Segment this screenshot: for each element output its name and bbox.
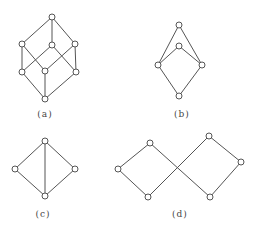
- edge: [179, 25, 202, 65]
- node: [42, 138, 48, 144]
- edge: [150, 143, 210, 197]
- node: [206, 133, 212, 139]
- node: [176, 93, 182, 99]
- node: [49, 42, 55, 48]
- caption-c: (c): [35, 209, 50, 219]
- caption-a: (a): [37, 109, 52, 119]
- node: [176, 22, 182, 28]
- edge: [22, 44, 45, 71]
- caption-b: (b): [174, 109, 190, 119]
- edge: [15, 169, 45, 196]
- node: [72, 41, 78, 47]
- edge: [45, 141, 75, 169]
- figure-d-figure-eight-graph: [115, 133, 244, 200]
- edge: [45, 72, 76, 99]
- caption-d: (d): [172, 209, 188, 219]
- node: [176, 43, 182, 49]
- edge: [209, 136, 241, 162]
- node: [19, 69, 25, 75]
- figure-c-diamond-lattice: [12, 138, 78, 199]
- edge: [158, 46, 179, 65]
- edge: [118, 169, 148, 197]
- edge: [45, 44, 75, 71]
- node: [49, 14, 55, 20]
- node: [72, 166, 78, 172]
- node: [115, 166, 121, 172]
- node: [73, 69, 79, 75]
- node: [207, 194, 213, 200]
- node: [42, 96, 48, 102]
- node: [155, 62, 161, 68]
- node: [238, 159, 244, 165]
- node: [42, 193, 48, 199]
- edge: [22, 72, 45, 99]
- node: [199, 62, 205, 68]
- node: [42, 68, 48, 74]
- edge: [52, 45, 76, 72]
- edge: [15, 141, 45, 169]
- edge: [45, 169, 75, 196]
- node: [145, 194, 151, 200]
- edge: [75, 44, 76, 72]
- edge: [210, 162, 241, 197]
- edge: [22, 17, 52, 44]
- figure-b-pentagon-lattice: [155, 22, 205, 99]
- edge: [158, 65, 179, 96]
- edge: [179, 65, 202, 96]
- edge: [52, 17, 75, 44]
- edge: [179, 46, 202, 65]
- node: [12, 166, 18, 172]
- node: [19, 41, 25, 47]
- node: [147, 140, 153, 146]
- edge: [118, 143, 150, 169]
- figure-a-cube-lattice: [19, 14, 79, 102]
